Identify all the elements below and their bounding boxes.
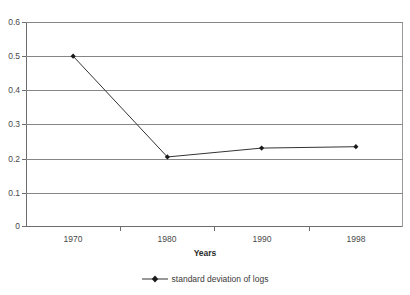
series-line bbox=[73, 56, 356, 157]
x-tick-label-1980: 1980 bbox=[158, 234, 177, 244]
x-axis-title: Years bbox=[0, 248, 410, 258]
x-tick-1 bbox=[120, 227, 121, 231]
x-tick-2 bbox=[214, 227, 215, 231]
y-tick-label-0.6: 0.6 bbox=[8, 17, 20, 27]
x-tick-label-1990: 1990 bbox=[253, 234, 272, 244]
legend-label-0: standard deviation of logs bbox=[172, 274, 269, 284]
x-tick-3 bbox=[309, 227, 310, 231]
x-tick-label-1998: 1998 bbox=[347, 234, 366, 244]
y-tick-label-0.5: 0.5 bbox=[8, 51, 20, 61]
series-standard-deviation-of-logs bbox=[26, 22, 403, 227]
y-tick-label-0.1: 0.1 bbox=[8, 188, 20, 198]
y-tick-label-0.2: 0.2 bbox=[8, 154, 20, 164]
y-tick-label-0: 0 bbox=[15, 221, 20, 231]
x-tick-label-1970: 1970 bbox=[64, 234, 83, 244]
legend-item-0: standard deviation of logs bbox=[142, 274, 269, 284]
series-markers bbox=[71, 54, 359, 160]
data-point-1998 bbox=[353, 144, 358, 149]
chart-figure: 0.6 0.5 0.4 0.3 0.2 0.1 0 1970 1980 1990… bbox=[0, 0, 410, 295]
y-tick-label-0.3: 0.3 bbox=[8, 119, 20, 129]
chart-title-fragment bbox=[0, 0, 410, 2]
chart-legend: standard deviation of logs bbox=[0, 274, 410, 284]
y-tick-label-0.4: 0.4 bbox=[8, 85, 20, 95]
diamond-line-marker-icon bbox=[142, 274, 168, 284]
data-point-1990 bbox=[259, 145, 264, 150]
